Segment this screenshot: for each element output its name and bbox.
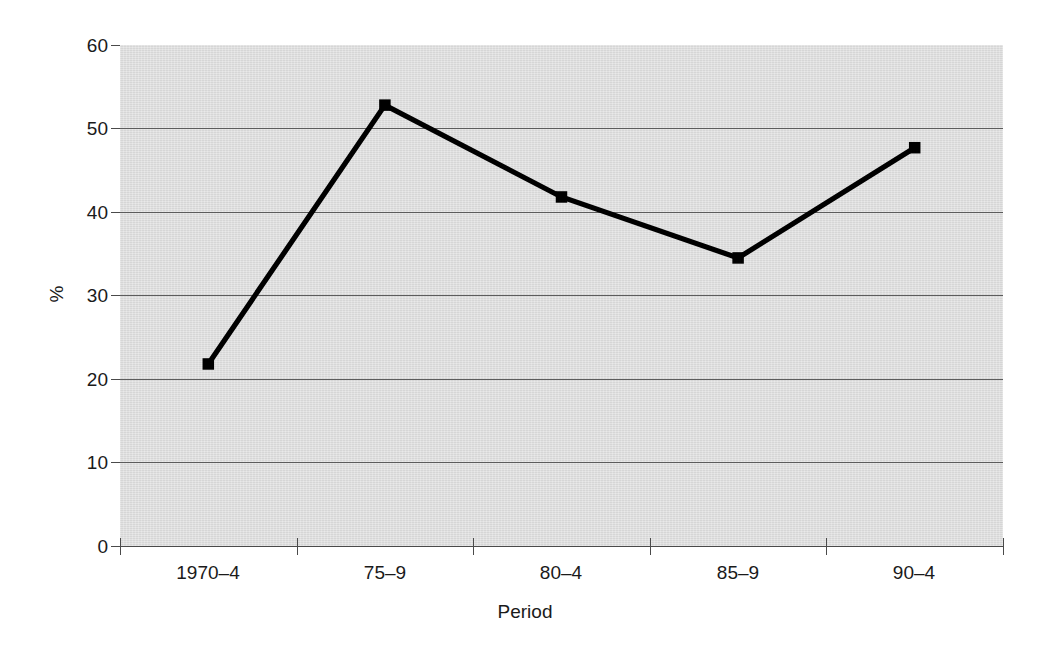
y-tick-label: 20 [62, 370, 108, 389]
series-line [208, 105, 914, 364]
x-tick-label-75-9: 75–9 [295, 562, 475, 584]
y-tick-label: 50 [62, 119, 108, 138]
y-axis-tick-labels: 60 50 40 30 20 10 0 [34, 0, 108, 657]
x-tick-label-85-9: 85–9 [648, 562, 828, 584]
y-tick-label: 10 [62, 453, 108, 472]
x-axis-line [120, 546, 1004, 547]
data-point-marker [909, 142, 921, 154]
data-point-marker [379, 99, 391, 111]
data-point-marker [556, 191, 568, 203]
x-tick-label-1970-4: 1970–4 [118, 562, 298, 584]
x-tick-label-80-4: 80–4 [471, 562, 651, 584]
y-tick-label: 30 [62, 286, 108, 305]
x-axis-tick [1003, 538, 1004, 555]
data-point-marker [732, 252, 744, 264]
line-chart: % 60 50 40 30 20 10 0 1970–4 75–9 80–4 8… [0, 0, 1050, 657]
x-axis-title: Period [0, 601, 1050, 623]
x-tick-label-90-4: 90–4 [824, 562, 1004, 584]
x-axis-tick [120, 538, 121, 555]
series-markers [203, 99, 921, 369]
x-axis-tick [826, 538, 827, 555]
y-tick-label: 40 [62, 203, 108, 222]
y-tick-label: 60 [62, 36, 108, 55]
x-axis-tick [650, 538, 651, 555]
y-tick-label: 0 [62, 537, 108, 556]
data-point-marker [203, 358, 215, 370]
x-axis-tick [297, 538, 298, 555]
x-axis-tick [473, 538, 474, 555]
data-series-layer [120, 45, 1003, 546]
